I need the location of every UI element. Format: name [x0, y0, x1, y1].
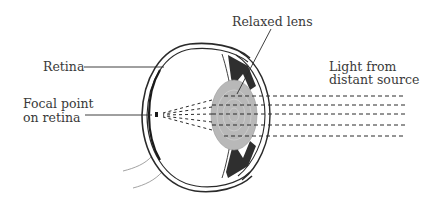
focal-point-marker: [155, 112, 158, 117]
label-retina: Retina: [43, 59, 85, 74]
converge-ray-1: [163, 100, 212, 113]
label-relaxed-lens: Relaxed lens: [232, 14, 313, 29]
label-light-2: distant source: [329, 72, 419, 87]
relaxed-lens: [211, 80, 257, 150]
converge-ray-2: [163, 107, 212, 114]
label-focal-point-1: Focal point: [23, 96, 94, 111]
nerve-strand-1: [123, 156, 152, 171]
eye-diagram: Retina Focal point on retina Relaxed len…: [0, 0, 428, 200]
converge-ray-3: [163, 114, 212, 115]
lens-body: [211, 80, 257, 150]
nerve-strand-2: [133, 172, 162, 188]
label-focal-point-2: on retina: [23, 110, 81, 125]
converging-rays: [163, 100, 212, 130]
